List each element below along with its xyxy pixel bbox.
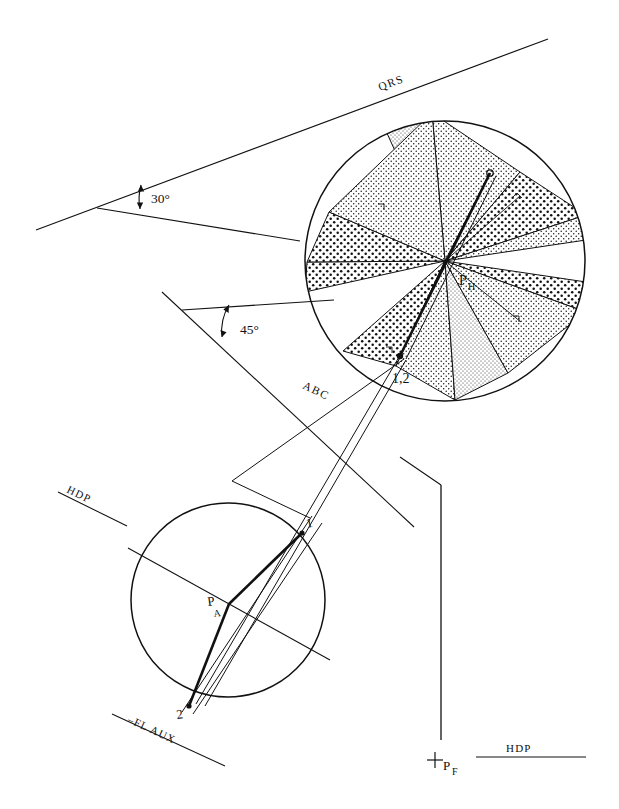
hdp-baseline-label: HDP — [506, 742, 532, 754]
upper-point-12-label: 1,2 — [392, 371, 410, 386]
geometry-drawing: 30° QRS 45° ABC — [0, 0, 619, 809]
pf-subscript: F — [452, 766, 458, 777]
angle-30-label: 30° — [151, 191, 170, 206]
page-background — [0, 0, 619, 809]
ph-base: P — [459, 273, 467, 288]
lower-node-1 — [299, 530, 304, 535]
pf-base: P — [443, 758, 450, 773]
diagram-canvas: 30° QRS 45° ABC — [0, 0, 619, 809]
angle-45-label: 45° — [240, 322, 259, 337]
ph-subscript: H — [468, 281, 475, 292]
lower-node-2 — [186, 703, 191, 708]
